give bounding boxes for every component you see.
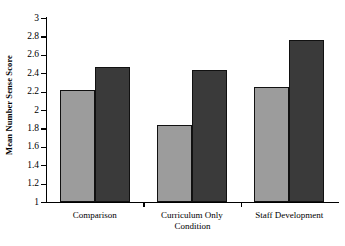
y-axis-tick-label: 1.6 <box>27 140 39 152</box>
y-axis-title-text: Mean Number Sense Score <box>4 55 14 155</box>
bar <box>60 90 95 202</box>
x-axis-category-label: Curriculum Only <box>143 210 240 221</box>
y-axis-tick-mark <box>41 55 46 56</box>
x-axis-title: Condition <box>46 221 339 232</box>
y-axis-tick-mark <box>41 202 46 203</box>
bar-chart-figure: Mean Number Sense Score 11.21.41.61.822.… <box>0 0 345 246</box>
y-axis-tick-label: 1.4 <box>27 159 39 171</box>
y-axis-tick-mark <box>41 36 46 37</box>
x-axis-tick-mark <box>241 202 242 207</box>
y-axis-tick-label: 1.2 <box>27 177 39 189</box>
y-axis-tick-mark <box>41 184 46 185</box>
y-axis-tick-label: 3 <box>34 12 39 24</box>
y-axis-tick-label: 1 <box>34 196 39 208</box>
y-axis-tick-label: 2.6 <box>27 48 39 60</box>
x-axis-category-label: Comparison <box>46 210 143 221</box>
x-axis-category-label: Staff Development <box>241 210 338 221</box>
y-axis-tick-mark <box>41 128 46 129</box>
bar <box>157 125 192 202</box>
y-axis-tick-label: 2 <box>34 104 39 116</box>
y-axis-tick-label: 2.2 <box>27 85 39 97</box>
y-axis-tick-mark <box>41 165 46 166</box>
plot-area: 11.21.41.61.822.22.42.62.83 <box>46 18 338 202</box>
y-axis-tick-mark <box>41 18 46 19</box>
y-axis-tick-mark <box>41 147 46 148</box>
bar <box>254 87 289 202</box>
bar <box>95 67 130 202</box>
y-axis-tick-mark <box>41 110 46 111</box>
bar <box>289 40 324 202</box>
x-axis-line <box>46 202 339 203</box>
x-axis-tick-mark <box>143 202 144 207</box>
y-axis-tick-label: 2.4 <box>27 67 39 79</box>
y-axis-title: Mean Number Sense Score <box>0 0 18 210</box>
y-axis-tick-mark <box>41 92 46 93</box>
y-axis-tick-label: 2.8 <box>27 30 39 42</box>
y-axis-tick-mark <box>41 73 46 74</box>
y-axis-tick-label: 1.8 <box>27 122 39 134</box>
bar <box>192 70 227 202</box>
